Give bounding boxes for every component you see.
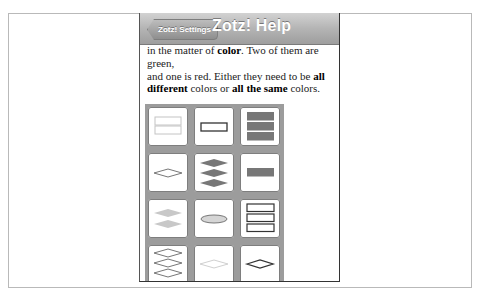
card-three-solid-rectangles[interactable] bbox=[240, 107, 280, 146]
card-one-empty-rectangle[interactable] bbox=[194, 107, 234, 146]
card-one-empty-diamond-dark[interactable] bbox=[240, 245, 280, 282]
bold-text: all bbox=[313, 70, 325, 82]
help-line-2: and one is red. Either they need to be a… bbox=[147, 70, 337, 83]
card-two-solid-diamonds[interactable] bbox=[148, 199, 188, 238]
navigation-bar: Zotz! Settings Zotz! Help bbox=[140, 13, 339, 45]
page-title: Zotz! Help bbox=[212, 17, 291, 35]
text: colors. bbox=[288, 82, 320, 94]
rectangle-shape-icon bbox=[240, 199, 280, 238]
rectangle-shape-icon bbox=[240, 153, 280, 192]
card-one-empty-diamond[interactable] bbox=[148, 153, 188, 192]
card-one-empty-diamond-light[interactable] bbox=[194, 245, 234, 282]
rectangle-shape-icon bbox=[194, 107, 234, 146]
card-three-empty-rectangles[interactable] bbox=[240, 199, 280, 238]
bold-text: all the same bbox=[232, 82, 288, 94]
help-text: in the matter of color. Two of them are … bbox=[147, 44, 337, 95]
card-three-empty-diamonds[interactable] bbox=[148, 245, 188, 282]
text: colors or bbox=[188, 82, 232, 94]
help-line-1: in the matter of color. Two of them are … bbox=[147, 44, 337, 70]
text: and one is red. Either they need to be bbox=[147, 70, 313, 82]
help-line-3: different colors or all the same colors. bbox=[147, 82, 337, 95]
back-button-zotz-settings[interactable]: Zotz! Settings bbox=[147, 19, 218, 40]
rectangle-shape-icon bbox=[148, 107, 188, 146]
diamond-shape-icon bbox=[194, 153, 234, 192]
diamond-shape-icon bbox=[148, 153, 188, 192]
card-two-empty-rectangles[interactable] bbox=[148, 107, 188, 146]
bold-text: different bbox=[147, 82, 188, 94]
oval-shape-icon bbox=[194, 199, 234, 238]
card-grid bbox=[145, 104, 284, 282]
diamond-shape-icon bbox=[240, 245, 280, 282]
diamond-shape-icon bbox=[148, 199, 188, 238]
text: in the matter of bbox=[147, 44, 217, 56]
diamond-shape-icon bbox=[148, 245, 188, 282]
rectangle-shape-icon bbox=[240, 107, 280, 146]
card-three-solid-diamonds[interactable] bbox=[194, 153, 234, 192]
phone-screen: Zotz! Settings Zotz! Help in the matter … bbox=[139, 13, 340, 282]
bold-text: color bbox=[217, 44, 241, 56]
diamond-shape-icon bbox=[194, 245, 234, 282]
card-one-striped-oval[interactable] bbox=[194, 199, 234, 238]
card-one-solid-rectangle[interactable] bbox=[240, 153, 280, 192]
